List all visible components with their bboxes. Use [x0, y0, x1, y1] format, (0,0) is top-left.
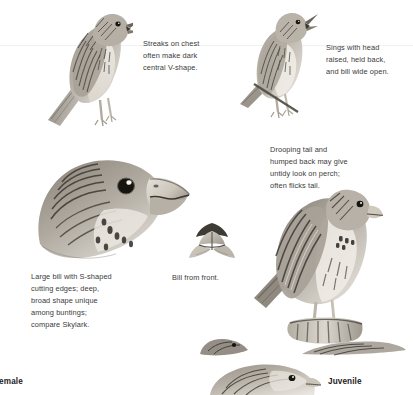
annotation-bill-from-front: Bill from front. [172, 272, 252, 284]
figure-head-profile-detail [32, 152, 197, 264]
annotation-sings-with-head: Sings with head raised, held back, and b… [326, 42, 410, 78]
annotation-streaks-on-chest: Streaks on chest often make dark central… [143, 38, 221, 74]
figure-singing-bunting-right [228, 8, 320, 120]
specimen-label-female: Female [0, 377, 23, 386]
field-guide-plate: Streaks on chest often make dark central… [0, 0, 413, 395]
annotation-drooping-tail: Drooping tail and humped back may give u… [270, 144, 370, 192]
figure-bill-front-detail [186, 221, 238, 265]
figure-juvenile-partial [208, 358, 328, 395]
specimen-label-juvenile: Juvenile [328, 377, 362, 386]
figure-singing-bunting-left [38, 2, 133, 130]
figure-female-partial-top [192, 336, 254, 358]
figure-perched-bunting-large [252, 186, 384, 346]
annotation-large-bill: Large bill with S-shaped cutting edges; … [31, 271, 137, 331]
figure-wing-partial-top-right [300, 340, 408, 356]
